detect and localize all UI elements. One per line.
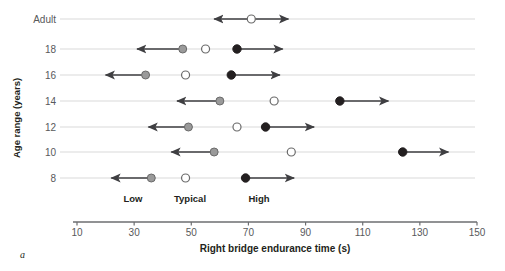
data-point-typical xyxy=(247,15,255,23)
data-point-low xyxy=(142,71,150,79)
y-tick-label: 10 xyxy=(45,147,57,158)
data-point-high xyxy=(336,97,344,105)
legend-label-high: High xyxy=(248,193,269,204)
data-point-low xyxy=(216,97,224,105)
x-tick-label: 130 xyxy=(412,227,429,238)
legend-label-typical: Typical xyxy=(174,193,206,204)
data-point-high xyxy=(227,71,235,79)
data-point-low xyxy=(210,148,218,156)
data-point-typical xyxy=(202,45,210,53)
y-tick-label: 12 xyxy=(45,122,57,133)
data-point-low xyxy=(147,174,155,182)
data-point-typical xyxy=(233,123,241,131)
legend-group: LowTypicalHigh xyxy=(124,193,270,204)
data-point-typical xyxy=(270,97,278,105)
y-tick-label: 18 xyxy=(45,44,57,55)
data-point-high xyxy=(233,45,241,53)
y-axis-title: Age range (years) xyxy=(11,78,22,158)
x-tick-label: 110 xyxy=(355,227,371,238)
x-tick-label: 50 xyxy=(186,227,198,238)
x-tick-label: 90 xyxy=(300,227,312,238)
y-tick-label: Adult xyxy=(33,14,56,25)
x-tick-label: 10 xyxy=(71,227,83,238)
x-tick-label: 70 xyxy=(243,227,255,238)
gridlines-group xyxy=(60,19,475,178)
legend-label-low: Low xyxy=(124,193,144,204)
data-point-low xyxy=(184,123,192,131)
data-point-high xyxy=(241,174,249,182)
x-axis-group: 1030507090110130150Right bridge enduranc… xyxy=(71,222,485,254)
data-point-high xyxy=(261,123,269,131)
y-axis-ticks: Adult18161412108 xyxy=(33,14,56,184)
y-tick-label: 16 xyxy=(45,70,57,81)
data-point-typical xyxy=(287,148,295,156)
x-tick-label: 150 xyxy=(469,227,486,238)
scatter-plot-canvas: Adult18161412108Age range (years)LowTypi… xyxy=(0,0,505,271)
data-point-typical xyxy=(182,71,190,79)
data-point-typical xyxy=(182,174,190,182)
data-point-high xyxy=(399,148,407,156)
x-axis-title: Right bridge endurance time (s) xyxy=(200,243,351,254)
data-point-low xyxy=(179,45,187,53)
data-points-group xyxy=(142,15,407,182)
chart-figure: Adult18161412108Age range (years)LowTypi… xyxy=(0,0,505,271)
panel-label: a xyxy=(20,249,25,260)
y-tick-label: 8 xyxy=(50,173,56,184)
y-tick-label: 14 xyxy=(45,96,57,107)
x-tick-label: 30 xyxy=(129,227,141,238)
